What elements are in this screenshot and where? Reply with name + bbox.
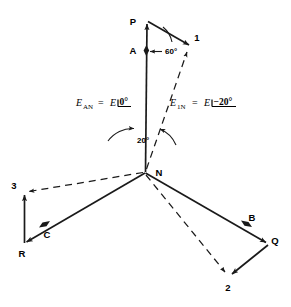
e-1n-magnitude: E xyxy=(203,97,210,108)
segment-q-to-2 xyxy=(232,245,268,274)
e-1n-angle-value: −20° xyxy=(214,97,233,107)
phasor-na-mid-arrow xyxy=(144,45,150,56)
phasor-diagram: P A 1 N 3 R C B Q 2 60° 20° E AN = E 0° xyxy=(0,0,291,307)
label-b: B xyxy=(249,212,256,223)
phasor-nb-line xyxy=(146,173,267,243)
label-n: N xyxy=(156,167,163,178)
phasor-n2-dashed xyxy=(146,175,225,272)
label-2: 2 xyxy=(225,282,230,293)
e-1n-symbol: E xyxy=(169,97,176,108)
angle-arc-group xyxy=(108,27,176,145)
label-3: 3 xyxy=(11,180,16,191)
e-an-equals: = xyxy=(98,97,104,108)
label-q: Q xyxy=(271,235,278,246)
angle-label-20: 20° xyxy=(137,136,149,145)
e-1n-subscript: 1N xyxy=(177,103,186,111)
angle-arc-20-left xyxy=(108,128,134,141)
angle-label-60: 60° xyxy=(165,47,177,56)
label-c: C xyxy=(44,229,51,240)
phasor-n3-dashed xyxy=(29,173,143,192)
label-1: 1 xyxy=(194,32,200,43)
angle-text-group: 60° 20° xyxy=(137,47,177,145)
phasor-nc-mid-arrow xyxy=(39,221,50,228)
figure-canvas: P A 1 N 3 R C B Q 2 60° 20° E AN = E 0° xyxy=(0,0,291,307)
e-an-magnitude: E xyxy=(109,97,116,108)
angle-arc-20-right xyxy=(160,129,176,145)
label-p: P xyxy=(130,16,137,27)
e-an-subscript: AN xyxy=(83,103,93,111)
dashed-phasor-group xyxy=(29,52,225,272)
equation-e-1n: E 1N = E −20° xyxy=(169,97,236,111)
equation-e-an: E AN = E 0° xyxy=(75,97,131,111)
label-r: R xyxy=(19,248,26,259)
solid-phasor-group xyxy=(27,24,267,243)
e-an-symbol: E xyxy=(75,97,82,108)
e-an-angle-value: 0° xyxy=(120,97,129,107)
label-a: A xyxy=(130,45,137,56)
e-1n-equals: = xyxy=(192,97,198,108)
